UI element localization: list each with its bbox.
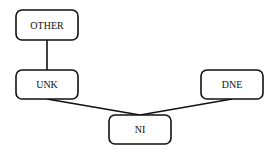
edge-unk-ni (47, 99, 140, 115)
node-unk: UNK (16, 70, 78, 99)
node-unk-label: UNK (36, 79, 58, 90)
node-ni-label: NI (135, 124, 146, 135)
node-dne-label: DNE (222, 79, 243, 90)
node-other-label: OTHER (30, 20, 64, 31)
node-dne: DNE (201, 70, 263, 99)
edge-dne-ni (140, 99, 232, 115)
node-ni: NI (109, 115, 171, 144)
hierarchy-diagram: OTHER UNK DNE NI (0, 0, 279, 155)
node-other: OTHER (16, 10, 78, 40)
